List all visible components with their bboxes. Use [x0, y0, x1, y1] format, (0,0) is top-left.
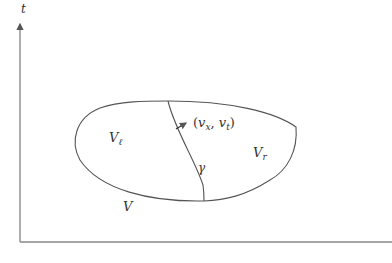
region-left-label: Vℓ: [109, 130, 122, 147]
t-axis-label: t: [21, 2, 26, 16]
curve-gamma-label: γ: [198, 161, 206, 175]
normal-arrow-icon: [176, 123, 186, 129]
diagram-canvas: t Vℓ Vr V γ (vx, vt): [0, 0, 392, 263]
region-right-label: Vr: [253, 145, 267, 162]
region-outer-label: V: [123, 199, 134, 214]
normal-vector-label: (vx, vt): [193, 115, 235, 132]
